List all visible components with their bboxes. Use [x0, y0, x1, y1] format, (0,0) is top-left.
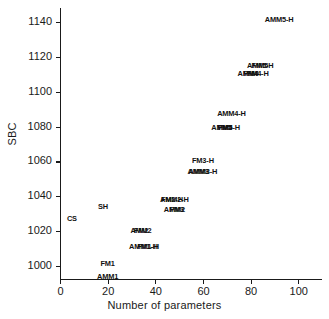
- chart-figure: SBC Number of parameters 100010201040106…: [0, 0, 329, 319]
- x-tick-label: 40: [150, 285, 162, 297]
- y-tick-label: 1120: [28, 50, 52, 62]
- data-point-label: FM1-H: [137, 243, 159, 250]
- data-point-label: FM2-H: [161, 196, 183, 203]
- x-tick: 40: [155, 279, 156, 284]
- x-tick-label: 60: [197, 285, 209, 297]
- data-point-label: FM5-H: [252, 62, 274, 69]
- data-point-label: AMM4-H: [217, 111, 246, 118]
- y-tick-label: 1060: [28, 154, 52, 166]
- y-tick-label: 1080: [28, 120, 52, 132]
- y-tick: 1140: [56, 22, 61, 23]
- x-tick-label: 20: [102, 285, 114, 297]
- data-point-label: FM4-H: [247, 71, 269, 78]
- y-tick-label: 1020: [28, 224, 52, 236]
- x-tick: 80: [251, 279, 252, 284]
- y-tick-label: 1140: [28, 15, 52, 27]
- plot-area: 10001020104010601080110011201140 0204060…: [60, 8, 322, 280]
- data-point-label: FM3: [170, 207, 184, 214]
- y-tick: 1040: [56, 196, 61, 197]
- y-tick: 1060: [56, 161, 61, 162]
- x-tick: 60: [203, 279, 204, 284]
- x-tick: 100: [298, 279, 299, 284]
- y-tick-label: 1040: [28, 189, 52, 201]
- x-tick: 0: [60, 279, 61, 284]
- y-tick: 1100: [56, 92, 61, 93]
- data-point-label: FM3-H: [192, 158, 214, 165]
- x-tick-label: 0: [58, 285, 64, 297]
- y-axis-line: [60, 8, 61, 280]
- y-tick: 1080: [56, 127, 61, 128]
- y-tick: 1000: [56, 266, 61, 267]
- data-point-label: FM2: [134, 227, 148, 234]
- y-tick-label: 1000: [28, 259, 52, 271]
- x-tick-label: 100: [290, 285, 308, 297]
- y-axis-title: SBC: [6, 104, 18, 164]
- y-tick: 1020: [56, 231, 61, 232]
- data-point-label: AMM1: [97, 273, 118, 280]
- data-point-label: AMM5-H: [265, 17, 294, 24]
- y-tick-label: 1100: [28, 85, 52, 97]
- data-point-label: FM1: [100, 261, 114, 268]
- y-tick: 1120: [56, 57, 61, 58]
- data-point-label: CS: [67, 215, 77, 222]
- x-axis-title: Number of parameters: [0, 299, 329, 311]
- data-point-label: SH: [98, 203, 108, 210]
- x-tick-label: 80: [245, 285, 257, 297]
- data-point-label: AMM3-H: [189, 168, 218, 175]
- data-point-label: FM5-H: [218, 125, 240, 132]
